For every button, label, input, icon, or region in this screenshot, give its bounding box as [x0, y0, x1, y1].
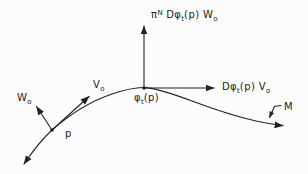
operator-text: Dφ — [222, 81, 237, 92]
label-tangent-pushforward: Dφt(p) Vo — [222, 80, 270, 95]
label-w-vector: Wo — [17, 91, 32, 106]
point-p-dot — [50, 128, 54, 132]
label-v-vector: Vo — [93, 78, 105, 93]
vector-subscript: o — [266, 87, 270, 95]
label-manifold: M — [284, 100, 293, 114]
vector-subscript: o — [213, 15, 217, 23]
flow-time-subscript: t — [237, 87, 240, 95]
flow-time-subscript: t — [181, 15, 184, 23]
vector-w0 — [37, 107, 53, 131]
figure-canvas: πN Dφt(p) Wo Dφt(p) Vo φt(p) Wo Vo p M — [0, 0, 308, 174]
argument-text: (p) W — [184, 9, 213, 20]
phi-symbol: φ — [134, 92, 141, 103]
flow-time-subscript: t — [141, 98, 144, 106]
superscript-n: N — [157, 9, 162, 17]
vector-letter: W — [17, 92, 27, 103]
vector-v0 — [52, 97, 89, 131]
vector-subscript: o — [100, 85, 104, 93]
argument-text: (p) — [144, 92, 159, 103]
operator-text: Dφ — [163, 9, 182, 20]
manifold-leader-line — [270, 106, 282, 118]
label-normal-pushforward: πN Dφt(p) Wo — [151, 8, 218, 23]
point-phi-dot — [142, 86, 146, 90]
vector-subscript: o — [27, 98, 31, 106]
label-point-p: p — [65, 127, 72, 141]
argument-text: (p) V — [240, 81, 266, 92]
label-flow-point: φt(p) — [134, 91, 159, 106]
